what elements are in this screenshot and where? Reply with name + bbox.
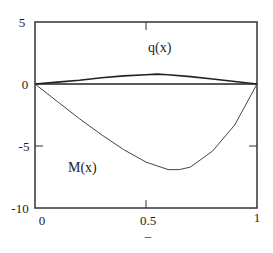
- m-series-label: M(x): [68, 160, 97, 176]
- x-tick-label-0: 0: [39, 213, 46, 228]
- y-tick-label-minus10: -10: [11, 201, 28, 216]
- q-series-label: q(x): [148, 40, 172, 56]
- chart: 5 0 -5 -10 0 0.5 1 – q(x) M(x): [0, 0, 273, 253]
- plot-frame: [35, 22, 257, 208]
- x-tick-label-half: 0.5: [140, 213, 156, 228]
- y-tick-label-minus5: -5: [19, 139, 30, 154]
- x-axis-label: –: [144, 228, 152, 243]
- y-tick-label-0: 0: [22, 77, 29, 92]
- x-tick-label-1: 1: [254, 210, 261, 225]
- series-m-line: [35, 84, 257, 170]
- series-q-line: [35, 74, 257, 84]
- y-tick-label-5: 5: [19, 15, 26, 30]
